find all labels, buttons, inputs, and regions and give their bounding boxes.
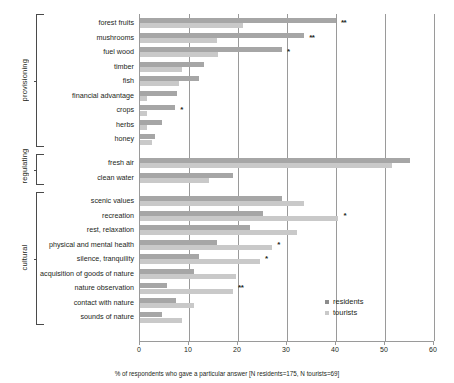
category-label: timber bbox=[8, 63, 134, 71]
bar bbox=[140, 274, 236, 279]
x-tick-label: 10 bbox=[184, 346, 192, 353]
bar bbox=[140, 289, 233, 294]
bar bbox=[140, 245, 272, 250]
legend-item: residents bbox=[325, 296, 363, 307]
category-label: clean water bbox=[8, 174, 134, 182]
bar bbox=[140, 318, 182, 323]
category-label: herbs bbox=[8, 121, 134, 129]
legend-swatch-icon bbox=[325, 311, 329, 315]
gridline-30 bbox=[287, 14, 288, 341]
category-label: sounds of nature bbox=[8, 313, 134, 321]
bar bbox=[140, 125, 147, 130]
legend-swatch-icon bbox=[325, 300, 329, 304]
bar bbox=[140, 201, 304, 206]
bar bbox=[140, 163, 392, 168]
x-tick bbox=[335, 341, 336, 345]
x-axis: 0102030405060 bbox=[139, 341, 433, 361]
x-tick bbox=[384, 341, 385, 345]
gridline-50 bbox=[385, 14, 386, 341]
group-bracket-nub bbox=[34, 170, 37, 171]
significance-marker: * bbox=[287, 48, 290, 56]
bar bbox=[140, 178, 209, 183]
significance-marker: * bbox=[343, 212, 346, 220]
bar bbox=[140, 259, 260, 264]
x-tick-label: 60 bbox=[429, 346, 437, 353]
category-label: fresh air bbox=[8, 159, 134, 167]
category-label: fuel wood bbox=[8, 48, 134, 56]
category-label: fish bbox=[8, 77, 134, 85]
category-label: silence, tranquility bbox=[8, 255, 134, 263]
significance-marker: ** bbox=[238, 284, 243, 292]
legend-item: tourists bbox=[325, 307, 363, 318]
category-label: forest fruits bbox=[8, 19, 134, 27]
x-tick bbox=[237, 341, 238, 345]
category-label: mushrooms bbox=[8, 34, 134, 42]
bar bbox=[140, 52, 218, 57]
x-axis-caption: % of respondents who gave a particular a… bbox=[0, 370, 454, 377]
significance-marker: ** bbox=[309, 34, 314, 42]
category-label: recreation bbox=[8, 212, 134, 220]
significance-marker: ** bbox=[341, 19, 346, 27]
bar bbox=[140, 230, 297, 235]
legend-label: tourists bbox=[333, 307, 357, 318]
x-tick bbox=[433, 341, 434, 345]
significance-marker: * bbox=[277, 241, 280, 249]
bar bbox=[140, 67, 182, 72]
gridline-60 bbox=[434, 14, 435, 341]
bar bbox=[140, 23, 243, 28]
bar bbox=[140, 216, 338, 221]
bar bbox=[140, 96, 147, 101]
significance-marker: * bbox=[180, 106, 183, 114]
x-tick bbox=[188, 341, 189, 345]
x-tick-label: 30 bbox=[282, 346, 290, 353]
bar bbox=[140, 140, 152, 145]
chart-legend: residentstourists bbox=[325, 296, 363, 318]
category-label: contact with nature bbox=[8, 299, 134, 307]
x-tick-label: 40 bbox=[331, 346, 339, 353]
category-label: rest, relaxation bbox=[8, 226, 134, 234]
legend-label: residents bbox=[333, 296, 363, 307]
x-tick-label: 50 bbox=[380, 346, 388, 353]
plot-area: *********** bbox=[139, 14, 434, 341]
x-tick bbox=[139, 341, 140, 345]
category-label: honey bbox=[8, 135, 134, 143]
category-label: physical and mental health bbox=[8, 241, 134, 249]
bar bbox=[140, 303, 194, 308]
gridline-40 bbox=[336, 14, 337, 341]
category-label: crops bbox=[8, 106, 134, 114]
category-label: nature observation bbox=[8, 284, 134, 292]
bar-chart: provisioningregulatingcultural forest fr… bbox=[0, 0, 454, 383]
bar bbox=[140, 111, 147, 116]
category-label: acquisition of goods of nature bbox=[8, 270, 134, 278]
x-tick bbox=[286, 341, 287, 345]
x-tick-label: 0 bbox=[137, 346, 141, 353]
bar bbox=[140, 38, 217, 43]
category-label: scenic values bbox=[8, 197, 134, 205]
category-label: financial advantage bbox=[8, 92, 134, 100]
x-tick-label: 20 bbox=[233, 346, 241, 353]
bar bbox=[140, 81, 179, 86]
significance-marker: * bbox=[265, 255, 268, 263]
